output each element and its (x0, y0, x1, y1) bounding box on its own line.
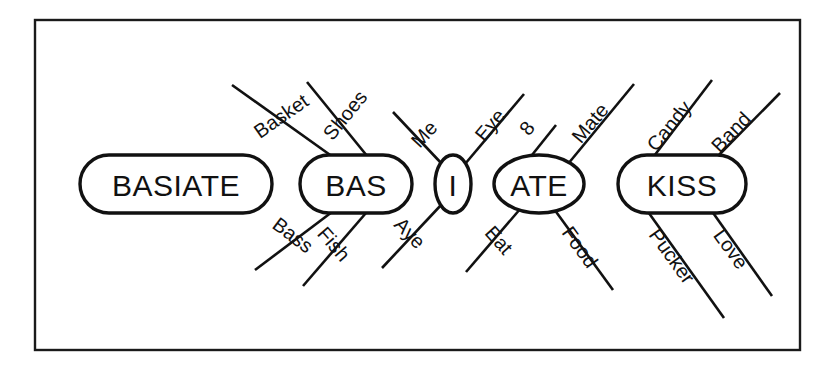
node-label-kiss: KISS (647, 169, 717, 202)
node-label-bas: BAS (325, 169, 387, 202)
node-label-basiate: BASIATE (112, 169, 240, 202)
figure-root: BASIATEBASIATEKISS BasketShoesBassFishMe… (0, 0, 832, 369)
diagram-canvas: BASIATEBASIATEKISS BasketShoesBassFishMe… (0, 0, 832, 369)
node-label-ate: ATE (510, 169, 568, 202)
node-label-i: I (449, 169, 458, 202)
